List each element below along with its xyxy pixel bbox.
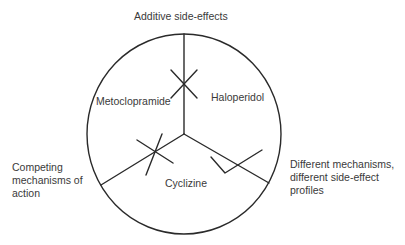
different-mechanisms-label: Different mechanisms, different side-eff… <box>290 158 394 197</box>
spoke-right <box>184 134 269 183</box>
additive-side-effects-label: Additive side-effects <box>134 10 228 23</box>
haloperidol-label: Haloperidol <box>211 91 264 104</box>
metoclopramide-label: Metoclopramide <box>96 95 171 108</box>
competing-mechanisms-label: Competing mechanisms of action <box>12 161 83 200</box>
antiemetic-diagram <box>0 0 405 245</box>
cyclizine-label: Cyclizine <box>165 177 207 190</box>
cross-mark-left <box>137 134 173 175</box>
